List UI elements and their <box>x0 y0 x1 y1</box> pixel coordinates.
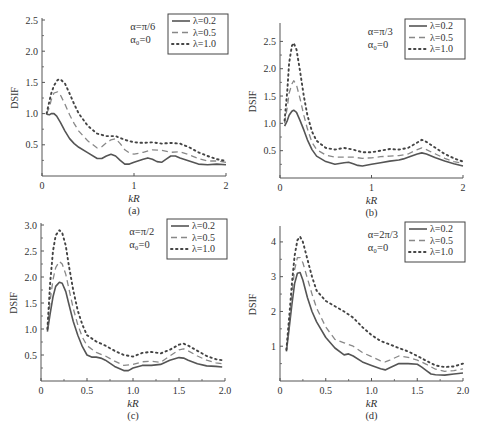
legend-label: λ=1.0 <box>430 43 453 54</box>
y-tick-label: 2.0 <box>25 272 38 283</box>
y-tick-label: 4 <box>271 236 276 247</box>
x-tick-label: 0.5 <box>81 385 94 396</box>
y-tick-label: 1.0 <box>26 108 39 119</box>
alpha-annotation: α=2π/3 <box>368 229 398 240</box>
alpha0-annotation: α₀=0 <box>368 242 388 253</box>
x-tick-label: 2.0 <box>457 385 470 396</box>
alpha0-annotation: α₀=0 <box>368 39 388 50</box>
series-line-0_2 <box>286 273 463 376</box>
legend: λ=0.2λ=0.5λ=1.0 <box>168 14 228 54</box>
x-tick-label: 0 <box>40 180 45 191</box>
y-tick-label: 2 <box>271 306 276 317</box>
y-axis-title: DSIF <box>9 87 20 109</box>
y-axis-title: DSIF <box>247 90 258 112</box>
x-axis-title: kR <box>366 397 378 409</box>
y-tick-label: 1.5 <box>264 91 277 102</box>
legend-label: λ=0.2 <box>193 15 216 26</box>
x-tick-label: 1.0 <box>365 385 378 396</box>
alpha-annotation: α=π/6 <box>130 21 155 32</box>
y-tick-label: 1.0 <box>264 118 277 129</box>
chart-panel-c: 0.51.01.52.02.53.000.51.01.52.0kRDSIF(c)… <box>8 219 231 422</box>
y-tick-label: 0.5 <box>25 350 38 361</box>
panel-label: (d) <box>365 410 378 422</box>
x-tick-label: 0 <box>278 182 283 193</box>
chart-panel-d: 123400.51.01.52.0kRDSIF(d)α=2π/3α₀=0λ=0.… <box>247 222 469 422</box>
legend-label: λ=0.5 <box>192 232 215 243</box>
legend-label: λ=0.2 <box>430 20 453 31</box>
y-axis-title: DSIF <box>247 293 258 315</box>
panel-label: (c) <box>127 410 139 422</box>
alpha-annotation: α=π/2 <box>129 226 154 237</box>
alpha0-annotation: α₀=0 <box>130 34 150 45</box>
series-line-0_5 <box>285 81 463 164</box>
x-tick-label: 1 <box>369 182 374 193</box>
x-tick-label: 2.0 <box>219 385 232 396</box>
y-tick-label: 2.5 <box>25 246 38 257</box>
alpha0-annotation: α₀=0 <box>129 239 149 250</box>
y-tick-label: 3 <box>271 271 276 282</box>
legend: λ=0.2λ=0.5λ=1.0 <box>405 222 465 262</box>
x-tick-label: 0 <box>39 385 44 396</box>
y-tick-label: 2.0 <box>26 46 39 57</box>
x-tick-label: 1 <box>132 180 137 191</box>
chart-panel-b: 0.51.01.52.02.5012kRDSIF(b)α=π/3α₀=0λ=0.… <box>247 19 466 219</box>
legend-label: λ=0.2 <box>192 220 215 231</box>
legend-label: λ=0.5 <box>430 32 453 43</box>
x-tick-label: 1.0 <box>127 385 140 396</box>
panel-label: (b) <box>365 207 378 219</box>
series-line-0_2 <box>285 110 463 166</box>
x-tick-label: 1.5 <box>173 385 186 396</box>
x-tick-label: 0.5 <box>320 385 333 396</box>
x-tick-label: 2 <box>224 180 229 191</box>
x-axis-title: kR <box>128 192 140 204</box>
y-tick-label: 3.0 <box>25 220 38 231</box>
x-tick-label: 0 <box>278 385 283 396</box>
legend: λ=0.2λ=0.5λ=1.0 <box>405 19 465 59</box>
y-tick-label: 1.0 <box>25 324 38 335</box>
legend-label: λ=1.0 <box>430 246 453 257</box>
alpha-annotation: α=π/3 <box>368 26 393 37</box>
series-line-0_5 <box>47 261 222 365</box>
series-line-1_0 <box>285 43 463 162</box>
x-tick-label: 1.5 <box>411 385 424 396</box>
x-axis-title: kR <box>127 397 139 409</box>
figure-canvas: 0.51.01.52.02.5012kRDSIF(a)α=π/6α₀=0λ=0.… <box>0 0 479 428</box>
series-line-0_2 <box>47 114 226 165</box>
x-tick-label: 2 <box>461 182 466 193</box>
legend-label: λ=1.0 <box>192 243 215 254</box>
y-tick-label: 2.5 <box>264 36 277 47</box>
y-tick-label: 1 <box>271 341 276 352</box>
chart-panel-a: 0.51.01.52.02.5012kRDSIF(a)α=π/6α₀=0λ=0.… <box>9 14 229 217</box>
figure: 0.51.01.52.02.5012kRDSIF(a)α=π/6α₀=0λ=0.… <box>0 0 479 428</box>
y-tick-label: 2.5 <box>26 15 39 26</box>
y-tick-label: 0.5 <box>264 145 277 156</box>
y-tick-label: 0.5 <box>26 139 39 150</box>
legend-label: λ=0.2 <box>430 223 453 234</box>
legend-label: λ=0.5 <box>430 235 453 246</box>
legend: λ=0.2λ=0.5λ=1.0 <box>167 219 227 259</box>
panel-label: (a) <box>128 205 140 217</box>
y-tick-label: 2.0 <box>264 63 277 74</box>
series-line-1_0 <box>47 79 226 161</box>
series-line-0_2 <box>47 282 222 370</box>
y-tick-label: 1.5 <box>26 77 39 88</box>
legend-label: λ=1.0 <box>193 38 216 49</box>
y-axis-title: DSIF <box>8 292 19 314</box>
x-axis-title: kR <box>366 194 378 206</box>
y-tick-label: 1.5 <box>25 298 38 309</box>
legend-label: λ=0.5 <box>193 27 216 38</box>
